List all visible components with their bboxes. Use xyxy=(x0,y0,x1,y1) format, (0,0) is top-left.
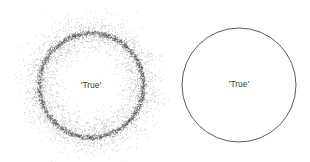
clean-circle-label: 'True' xyxy=(229,79,249,89)
diagram-canvas xyxy=(0,0,310,162)
noisy-circle-label: 'True' xyxy=(81,80,101,90)
